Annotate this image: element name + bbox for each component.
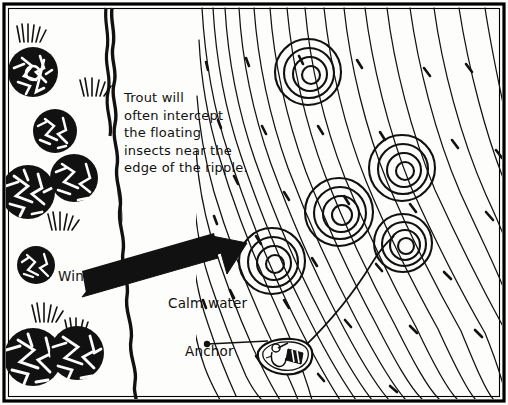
bush: [50, 154, 98, 202]
bush: [8, 47, 58, 97]
anchor-label: Anchor: [185, 343, 234, 359]
calm-water-label: Calm water: [168, 295, 247, 311]
diagram-canvas: Trout will often intercept the floating …: [0, 0, 508, 405]
boat: [258, 339, 313, 375]
illustration-svg: [0, 0, 508, 405]
bush: [33, 109, 77, 153]
note-text: Trout will often intercept the floating …: [124, 89, 248, 177]
bush: [17, 246, 55, 284]
bush: [50, 326, 104, 380]
bush: [1, 165, 55, 219]
wind-label: Wind: [58, 268, 93, 284]
